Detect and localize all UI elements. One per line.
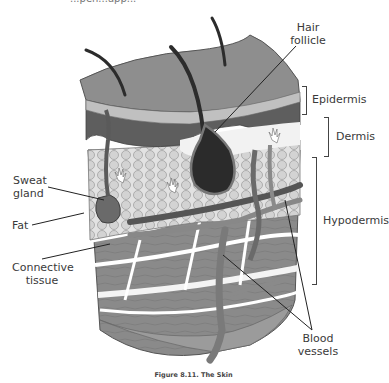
epidermis-bracket (302, 86, 307, 115)
label-blood-vessels: Blood vessels (296, 332, 340, 358)
label-hair-follicle: Hair follicle (286, 21, 330, 47)
label-connective-tissue: Connective tissue (12, 261, 72, 287)
leader-fat (32, 213, 84, 225)
label-fat: Fat (12, 219, 28, 232)
dermis-bracket (324, 117, 329, 157)
hypodermis-bracket (312, 157, 317, 285)
figure-caption: Figure 8.11. The Skin (0, 371, 387, 379)
label-sweat-gland: Sweat gland (13, 174, 47, 200)
label-dermis: Dermis (336, 130, 375, 143)
label-hypodermis: Hypodermis (323, 214, 389, 227)
label-epidermis: Epidermis (312, 93, 367, 106)
